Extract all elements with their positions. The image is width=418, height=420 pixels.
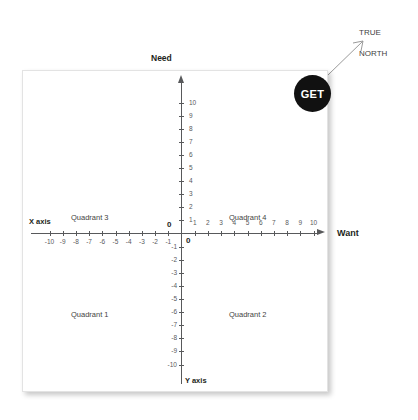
y-tick-label: 5 <box>189 165 205 172</box>
want-label: Want <box>337 228 359 238</box>
y-tick-label: -7 <box>163 322 177 329</box>
x-tick <box>89 231 90 236</box>
quadrant-label-2: Quadrant 2 <box>229 310 267 319</box>
quadrant-card: -10-9-8-7-6-5-4-3-2-112345678910-10-9-8-… <box>22 70 328 392</box>
y-tick-label: -10 <box>163 362 177 369</box>
x-tick <box>102 231 103 236</box>
y-tick-label: -3 <box>163 270 177 277</box>
y-tick <box>179 116 184 117</box>
x-tick <box>76 231 77 236</box>
x-tick-label: 3 <box>214 220 228 227</box>
x-tick <box>314 231 315 236</box>
y-tick-label: -6 <box>163 309 177 316</box>
y-tick-label: -5 <box>163 296 177 303</box>
y-axis-title: Y axis <box>185 376 207 385</box>
y-tick <box>179 103 184 104</box>
y-tick-label: 10 <box>189 100 205 107</box>
x-tick <box>129 231 130 236</box>
y-tick-label: -4 <box>163 283 177 290</box>
x-tick-label: 9 <box>293 220 307 227</box>
y-tick <box>179 168 184 169</box>
y-tick-label: 3 <box>189 191 205 198</box>
x-tick <box>248 231 249 236</box>
y-tick <box>179 194 184 195</box>
y-tick <box>179 260 184 261</box>
x-tick <box>300 231 301 236</box>
y-tick-label: 1 <box>189 217 205 224</box>
y-tick <box>179 351 184 352</box>
x-tick-label: -4 <box>122 239 136 246</box>
x-tick <box>208 231 209 236</box>
diagram-canvas: TRUE NORTH Need Want -10-9-8-7-6-5-4-3-2… <box>0 0 418 420</box>
y-tick <box>179 155 184 156</box>
x-tick <box>50 231 51 236</box>
y-tick <box>179 299 184 300</box>
x-tick-label: -3 <box>135 239 149 246</box>
y-tick <box>179 365 184 366</box>
x-tick-label: -2 <box>148 239 162 246</box>
quadrant-label-4: Quadrant 4 <box>229 213 267 222</box>
x-tick <box>195 231 196 236</box>
y-tick <box>179 273 184 274</box>
x-tick-label: -9 <box>56 239 70 246</box>
y-tick-label: -9 <box>163 348 177 355</box>
y-tick <box>179 220 184 221</box>
quadrant-label-3: Quadrant 3 <box>71 213 109 222</box>
y-tick <box>179 312 184 313</box>
y-tick <box>179 142 184 143</box>
x-tick <box>142 231 143 236</box>
x-axis-arrow-icon <box>317 229 325 235</box>
y-tick-label: -2 <box>163 257 177 264</box>
y-axis-arrow-icon <box>178 75 184 83</box>
x-tick <box>274 231 275 236</box>
y-tick-label: 7 <box>189 139 205 146</box>
x-tick <box>63 231 64 236</box>
get-badge[interactable]: GET <box>294 75 331 112</box>
true-north-line-2: NORTH <box>359 49 387 58</box>
y-tick <box>179 181 184 182</box>
x-tick-label: 7 <box>267 220 281 227</box>
y-tick <box>179 325 184 326</box>
x-tick <box>234 231 235 236</box>
x-tick-label: -10 <box>43 239 57 246</box>
y-tick-label: -8 <box>163 335 177 342</box>
y-tick <box>179 207 184 208</box>
x-tick <box>155 231 156 236</box>
true-north-line-1: TRUE <box>359 28 381 37</box>
x-tick <box>261 231 262 236</box>
x-tick-label: 10 <box>307 220 321 227</box>
y-tick-label: 9 <box>189 113 205 120</box>
origin-label-top: 0 <box>167 221 171 229</box>
x-axis-title: X axis <box>29 217 51 226</box>
x-tick-label: -7 <box>82 239 96 246</box>
x-tick <box>287 231 288 236</box>
quadrant-label-1: Quadrant 1 <box>71 310 109 319</box>
y-tick <box>179 129 184 130</box>
y-tick-label: 8 <box>189 126 205 133</box>
x-tick-label: 8 <box>280 220 294 227</box>
true-north-annotation: TRUE NORTH <box>359 17 415 60</box>
y-tick-label: 4 <box>189 178 205 185</box>
need-label: Need <box>151 53 172 63</box>
x-tick <box>116 231 117 236</box>
y-tick <box>179 286 184 287</box>
y-tick-label: 2 <box>189 204 205 211</box>
y-tick-label: -1 <box>163 244 177 251</box>
x-tick <box>221 231 222 236</box>
origin-label-bottom: 0 <box>186 237 190 245</box>
y-tick <box>179 338 184 339</box>
x-tick <box>168 231 169 236</box>
x-tick-label: -6 <box>95 239 109 246</box>
y-tick-label: 6 <box>189 152 205 159</box>
x-tick-label: -8 <box>69 239 83 246</box>
x-tick-label: -5 <box>109 239 123 246</box>
x-axis-line <box>31 233 319 234</box>
y-tick <box>179 247 184 248</box>
